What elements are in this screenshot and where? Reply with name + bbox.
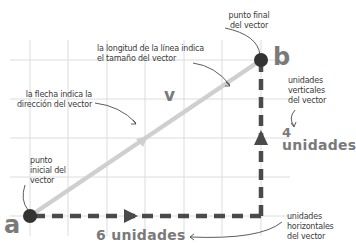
end-point <box>254 53 268 67</box>
start-point-label-line-2: inicial del <box>30 166 66 176</box>
direction-note-line-1: la flecha indica la <box>10 90 92 100</box>
vertical-count-word: unidades <box>282 137 356 153</box>
length-note: la longitud de la línea indica el tamaño… <box>97 44 204 64</box>
horizontal-units-line-1: unidades <box>287 212 334 222</box>
length-note-line-2: el tamaño del vector <box>97 54 204 64</box>
end-point-label: punto final del vector <box>225 11 273 31</box>
start-point-label: punto inicial del vector <box>30 156 66 186</box>
start-point <box>23 209 37 223</box>
horizontal-units-line-2: horizontales <box>287 222 334 232</box>
horizontal-arrow-icon <box>124 209 138 223</box>
horizontal-units-label: unidades horizontales del vector <box>287 212 334 242</box>
direction-note-line-2: dirección del vector <box>10 100 92 110</box>
end-point-label-line-2: del vector <box>225 21 273 31</box>
start-point-label-line-1: punto <box>30 156 66 166</box>
point-b-letter: b <box>273 44 290 70</box>
direction-note: la flecha indica la dirección del vector <box>10 90 92 110</box>
vertical-units-line-1: unidades <box>288 76 326 86</box>
vertical-units-line-3: del vector <box>288 96 326 106</box>
vertical-units-line-2: verticales <box>288 86 326 96</box>
start-point-label-line-3: vector <box>30 176 66 186</box>
vertical-component <box>254 66 268 216</box>
end-point-label-line-1: punto final <box>225 11 273 21</box>
vector-v-letter: v <box>164 86 175 104</box>
horizontal-units-line-3: del vector <box>287 232 334 242</box>
length-note-line-1: la longitud de la línea indica <box>97 44 204 54</box>
vertical-units-label: unidades verticales del vector <box>288 76 326 106</box>
point-a-letter: a <box>4 212 20 238</box>
horizontal-count: 6 unidades <box>96 227 186 243</box>
